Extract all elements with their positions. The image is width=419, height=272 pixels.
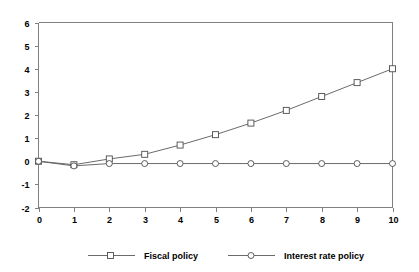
data-point-marker-circle [390,161,396,167]
legend-marker-circle-icon [248,253,254,259]
data-point-marker-circle [248,161,254,167]
x-tick-label: 1 [72,215,77,225]
data-point-marker-square [390,66,396,72]
line-chart: 6543210-1-2 012345678910 Fiscal policy I… [0,0,419,272]
y-tick-label: 4 [24,65,29,75]
y-tick-label: 5 [24,42,29,52]
y-tick-label: 1 [24,134,29,144]
x-tick-label: 3 [143,215,148,225]
x-tick-label: 5 [214,215,219,225]
data-point-marker-square [142,151,148,157]
data-point-marker-square [177,142,183,148]
data-point-marker-square [319,94,325,100]
data-point-marker-circle [319,161,325,167]
y-tick-label: 0 [24,157,29,167]
x-tick-label: 0 [37,215,42,225]
legend-label-interest-rate-policy: Interest rate policy [284,251,364,261]
y-tick-label: -1 [21,180,29,190]
data-point-marker-square [354,80,360,86]
x-tick-label: 2 [107,215,112,225]
data-point-marker-circle [71,163,77,169]
data-point-marker-circle [177,161,183,167]
x-tick-label: 7 [284,215,289,225]
y-tick-label: 2 [24,111,29,121]
data-point-marker-circle [106,161,112,167]
chart-container: 6543210-1-2 012345678910 Fiscal policy I… [0,0,419,272]
x-tick-label: 6 [249,215,254,225]
y-tick-label: 6 [24,19,29,29]
data-point-marker-square [213,132,219,138]
x-tick-label: 10 [388,215,398,225]
data-point-marker-square [248,120,254,126]
x-tick-label: 8 [320,215,325,225]
x-tick-label: 9 [355,215,360,225]
legend-label-fiscal-policy: Fiscal policy [144,251,198,261]
y-tick-label: -2 [21,204,29,214]
data-point-marker-circle [354,161,360,167]
data-point-marker-square [283,107,289,113]
data-point-marker-circle [213,161,219,167]
legend-marker-square-icon [108,253,114,259]
data-point-marker-circle [36,158,42,164]
y-tick-label: 3 [24,88,29,98]
data-point-marker-circle [142,161,148,167]
data-point-marker-circle [283,161,289,167]
x-tick-label: 4 [178,215,183,225]
